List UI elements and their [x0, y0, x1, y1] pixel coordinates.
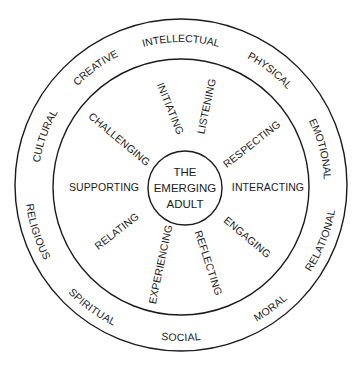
center-line-2: EMERGING	[154, 182, 217, 194]
dimension-moral: MORAL	[251, 291, 289, 323]
action-engaging: ENGAGING	[222, 214, 274, 260]
dimension-intellectual: INTELLECTUAL	[141, 32, 221, 49]
dimension-emotional: EMOTIONAL	[307, 117, 334, 180]
action-supporting: SUPPORTING	[69, 181, 139, 193]
action-experiencing: EXPERIENCING	[146, 224, 174, 305]
center-line-1: THE	[174, 166, 197, 178]
center-line-3: ADULT	[167, 198, 204, 210]
center-label: THE EMERGING ADULT	[154, 166, 217, 210]
action-relating: RELATING	[92, 210, 141, 252]
action-respecting: RESPECTING	[221, 118, 283, 170]
dimension-religious: RELIGIOUS	[24, 203, 53, 262]
action-challenging: CHALLENGING	[86, 110, 152, 168]
action-listening: LISTENING	[194, 77, 217, 135]
dimension-physical: PHYSICAL	[246, 49, 295, 91]
dimension-social: SOCIAL	[161, 330, 201, 343]
action-interacting: INTERACTING	[232, 181, 304, 193]
dimension-cultural: CULTURAL	[30, 107, 60, 163]
action-initiating: INITIATING	[155, 81, 187, 137]
dimension-relational: RELATIONAL	[302, 208, 337, 273]
action-reflecting: REFLECTING	[193, 229, 225, 297]
dimension-spiritual: SPIRITUAL	[67, 286, 118, 328]
dimension-creative: CREATIVE	[71, 47, 120, 87]
emerging-adult-diagram: THE EMERGING ADULT INITIATING LISTENING …	[0, 0, 361, 375]
